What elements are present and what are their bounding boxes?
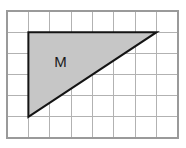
grid-figure: M [0,0,186,148]
grid-figure-svg: M [0,0,186,148]
shape-label-m: M [54,53,67,70]
